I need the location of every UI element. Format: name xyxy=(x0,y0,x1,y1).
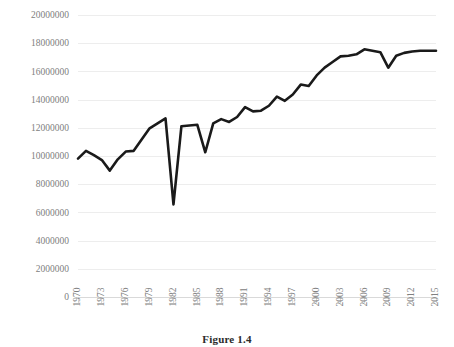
x-axis-tick-label: 1982 xyxy=(168,287,178,306)
x-axis-tick-label: 2003 xyxy=(335,287,345,306)
data-series-group xyxy=(78,49,436,204)
y-axis-tick-label: 20000000 xyxy=(31,10,69,20)
x-axis-tick-label: 1985 xyxy=(192,287,202,306)
x-axis-tick-label: 2015 xyxy=(430,287,440,306)
y-axis-tick-label: 18000000 xyxy=(31,38,69,48)
x-axis-tick-label: 1970 xyxy=(72,287,82,306)
x-axis-tick-label: 1979 xyxy=(144,287,154,306)
x-axis-tick-label: 2012 xyxy=(406,287,416,306)
y-axis-tick-label: 2000000 xyxy=(36,264,70,274)
data-series-line xyxy=(78,49,436,204)
y-axis-tick-label: 14000000 xyxy=(31,95,69,105)
y-axis-tick-label: 8000000 xyxy=(36,179,70,189)
y-axis-tick-labels: 0200000040000006000000800000010000000120… xyxy=(31,10,69,302)
x-axis-tick-label: 1973 xyxy=(96,287,106,306)
y-axis-tick-label: 4000000 xyxy=(36,236,70,246)
x-axis-tick-label: 1997 xyxy=(287,287,297,306)
y-axis-tick-label: 0 xyxy=(64,292,69,302)
y-axis-tick-label: 6000000 xyxy=(36,208,70,218)
x-axis-tick-label: 2009 xyxy=(382,287,392,306)
line-chart: 0200000040000006000000800000010000000120… xyxy=(0,0,454,347)
x-axis-tick-labels: 1970197319761979198219851988199119941997… xyxy=(72,287,440,306)
x-axis-tick-label: 2000 xyxy=(311,287,321,306)
x-axis-tick-label: 1994 xyxy=(263,287,273,306)
y-axis-tick-label: 12000000 xyxy=(31,123,69,133)
y-axis-tick-label: 10000000 xyxy=(31,151,69,161)
x-axis-tick-label: 1991 xyxy=(239,287,249,306)
x-axis-tick-label: 1976 xyxy=(120,287,130,306)
y-axis-tick-label: 16000000 xyxy=(31,67,69,77)
x-axis-tick-label: 1988 xyxy=(215,287,225,306)
figure-caption: Figure 1.4 xyxy=(0,332,454,347)
x-axis-tick-label: 2006 xyxy=(359,287,369,306)
figure-container: 0200000040000006000000800000010000000120… xyxy=(0,0,454,347)
